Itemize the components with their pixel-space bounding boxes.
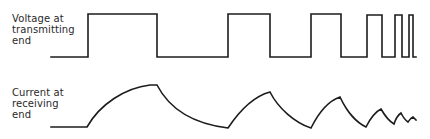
current-response-curve: [51, 85, 416, 128]
voltage-square-wave: [51, 14, 416, 57]
waveform-diagram: [0, 0, 430, 139]
